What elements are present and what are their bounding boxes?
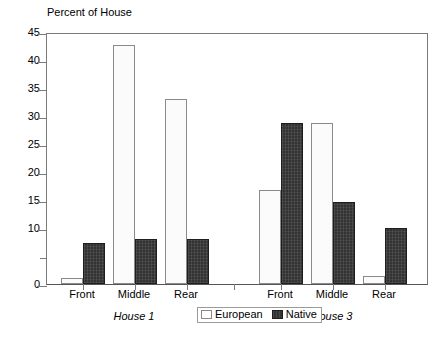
y-tick-0 bbox=[37, 286, 47, 287]
y-tick-30 bbox=[37, 118, 47, 119]
y-tick-20 bbox=[37, 174, 47, 175]
bar-house-3-rear-european bbox=[363, 276, 385, 284]
y-tick-label-0: 0 bbox=[14, 279, 40, 290]
y-tick-label-40: 40 bbox=[14, 55, 40, 66]
chart-title: Percent of House bbox=[47, 6, 132, 19]
x-axis-label-house-3-middle: Middle bbox=[316, 288, 348, 300]
y-tick-35 bbox=[37, 90, 47, 91]
y-tick-25 bbox=[37, 146, 47, 147]
y-tick-label-25: 25 bbox=[14, 139, 40, 150]
y-tick-label-10: 10 bbox=[14, 223, 40, 234]
y-tick-label-20: 20 bbox=[14, 167, 40, 178]
x-axis-label-house-1-front: Front bbox=[69, 288, 95, 300]
y-tick-label-15: 15 bbox=[14, 195, 40, 206]
legend-swatch-native bbox=[272, 310, 283, 319]
bar-house-1-middle-native bbox=[135, 239, 157, 284]
bar-house-1-rear-european bbox=[165, 99, 187, 284]
bar-house-1-middle-european bbox=[113, 45, 135, 284]
y-tick-label-30: 30 bbox=[14, 111, 40, 122]
bar-house-3-front-european bbox=[259, 190, 281, 284]
y-axis-labels: 01015202530354045 bbox=[0, 33, 40, 285]
x-axis-label-house-1-rear: Rear bbox=[174, 288, 198, 300]
group-label-house-1: House 1 bbox=[114, 310, 155, 322]
x-axis-label-house-3-rear: Rear bbox=[372, 288, 396, 300]
bar-house-3-middle-native bbox=[333, 202, 355, 284]
y-tick-15 bbox=[37, 202, 47, 203]
bar-house-1-front-european bbox=[61, 278, 83, 284]
legend-swatch-european bbox=[201, 310, 212, 319]
plot-area bbox=[46, 33, 428, 285]
x-axis-labels: FrontMiddleRearFrontMiddleRear bbox=[46, 288, 428, 304]
x-axis-label-house-3-front: Front bbox=[267, 288, 293, 300]
chart-legend: EuropeanNative bbox=[197, 307, 322, 323]
y-tick-5 bbox=[40, 258, 47, 259]
y-tick-10 bbox=[37, 230, 47, 231]
y-tick-label-35: 35 bbox=[14, 83, 40, 94]
y-tick-45 bbox=[37, 34, 47, 35]
legend-entry-european: European bbox=[201, 309, 263, 320]
legend-label-european: European bbox=[215, 309, 263, 320]
legend-label-native: Native bbox=[286, 309, 317, 320]
y-tick-40 bbox=[37, 62, 47, 63]
bar-house-3-rear-native bbox=[385, 228, 407, 284]
y-tick-label-45: 45 bbox=[14, 27, 40, 38]
plot-inner bbox=[47, 34, 427, 284]
bar-chart: Percent of House 01015202530354045 Front… bbox=[0, 0, 438, 344]
bar-house-3-middle-european bbox=[311, 123, 333, 284]
bar-house-1-rear-native bbox=[187, 239, 209, 284]
x-axis-label-house-1-middle: Middle bbox=[118, 288, 150, 300]
bar-house-1-front-native bbox=[83, 243, 105, 284]
legend-entry-native: Native bbox=[272, 309, 317, 320]
bar-house-3-front-native bbox=[281, 123, 303, 284]
